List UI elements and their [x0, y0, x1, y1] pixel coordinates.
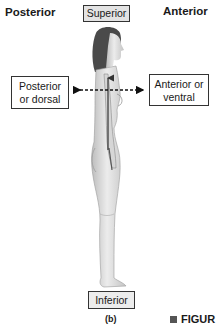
posterior-dorsal-line2: or dorsal [12, 93, 68, 106]
anatomical-figure-illustration [0, 0, 218, 325]
caption-square-icon [170, 316, 177, 323]
anterior-ventral-line2: ventral [150, 91, 208, 104]
posterior-dorsal-label-box: Posterior or dorsal [11, 76, 69, 109]
superior-label: Superior [87, 7, 127, 19]
anterior-ventral-line1: Anterior or [150, 78, 208, 91]
posterior-dorsal-line1: Posterior [12, 80, 68, 93]
posterior-heading: Posterior [5, 6, 56, 18]
anterior-heading: Anterior [163, 5, 208, 17]
body [92, 66, 126, 287]
superior-label-box: Superior [83, 5, 130, 22]
inferior-label: Inferior [95, 294, 128, 306]
figure-caption-text: FIGUR [181, 313, 215, 325]
inferior-label-box: Inferior [88, 291, 135, 309]
anterior-ventral-label-box: Anterior or ventral [149, 74, 209, 106]
panel-caption: (b) [105, 314, 117, 324]
figure-caption: FIGUR [170, 313, 215, 325]
